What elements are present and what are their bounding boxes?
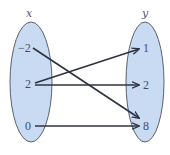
codomain-element-1: 1 [143,41,149,55]
domain-element-2: 2 [25,77,31,91]
codomain-element-8: 8 [143,119,149,133]
domain-element-neg2: −2 [18,41,31,55]
mapping-diagram: x −2 2 0 y 1 2 8 [0,0,170,155]
codomain-set-label: y [141,7,149,20]
domain-set-label: x [26,7,33,20]
domain-set: x −2 2 0 [10,7,52,142]
codomain-set: y 1 2 8 [126,7,164,142]
codomain-element-2: 2 [143,78,149,92]
domain-element-0: 0 [25,119,31,133]
domain-ellipse [10,22,52,142]
